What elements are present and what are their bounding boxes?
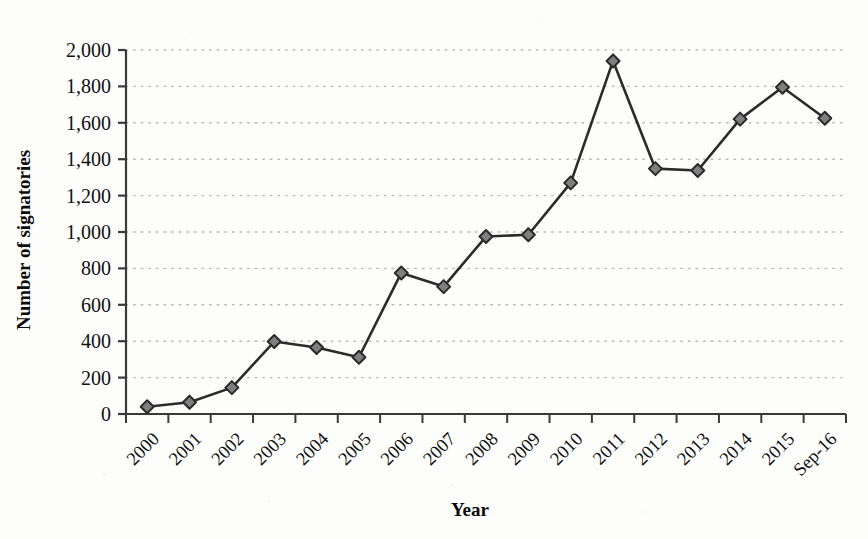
y-tick-label: 400 [81, 330, 111, 352]
x-axis [126, 414, 846, 423]
x-axis-title: Year [451, 499, 490, 520]
x-tick-label: 2006 [377, 429, 417, 469]
x-tick-label: 2011 [589, 429, 629, 469]
y-tick-label: 1,600 [66, 112, 111, 134]
x-tick-label: 2012 [631, 429, 671, 469]
data-point-marker [310, 341, 323, 354]
y-tick-label: 200 [81, 367, 111, 389]
data-point-marker [352, 351, 365, 364]
y-tick-label: 1,800 [66, 75, 111, 97]
data-point-marker [395, 266, 408, 279]
data-point-marker [183, 396, 196, 409]
x-tick-label: Sep-16 [789, 429, 840, 480]
y-tick-label: 1,200 [66, 185, 111, 207]
y-tick-label: 800 [81, 257, 111, 279]
data-markers [141, 54, 832, 413]
x-tick-label: 2000 [123, 429, 163, 469]
y-tick-label: 0 [101, 403, 111, 425]
y-axis-title: Number of signatories [13, 150, 34, 330]
y-tick-label: 1,400 [66, 148, 111, 170]
x-tick-labels: 2000200120022003200420052006200720082009… [123, 429, 841, 480]
x-tick-label: 2005 [334, 429, 374, 469]
x-tick-label: 2008 [462, 429, 502, 469]
line-chart: 02004006008001,0001,2001,4001,6001,8002,… [0, 0, 868, 539]
y-tick-label: 600 [81, 294, 111, 316]
y-axis [118, 50, 126, 414]
y-tick-label: 1,000 [66, 221, 111, 243]
x-tick-label: 2001 [165, 429, 205, 469]
data-point-marker [607, 54, 620, 67]
x-tick-label: 2004 [292, 429, 332, 469]
x-tick-label: 2013 [673, 429, 713, 469]
y-tick-label: 2,000 [66, 39, 111, 61]
chart-page: 02004006008001,0001,2001,4001,6001,8002,… [0, 0, 868, 539]
y-tick-labels: 02004006008001,0001,2001,4001,6001,8002,… [66, 39, 111, 425]
x-tick-label: 2014 [716, 429, 756, 469]
grid-lines [126, 50, 846, 378]
data-point-marker [141, 400, 154, 413]
x-tick-label: 2009 [504, 429, 544, 469]
x-tick-label: 2007 [419, 429, 459, 469]
x-tick-label: 2010 [546, 429, 586, 469]
x-tick-label: 2003 [250, 429, 290, 469]
data-point-marker [649, 162, 662, 175]
x-tick-label: 2002 [207, 429, 247, 469]
